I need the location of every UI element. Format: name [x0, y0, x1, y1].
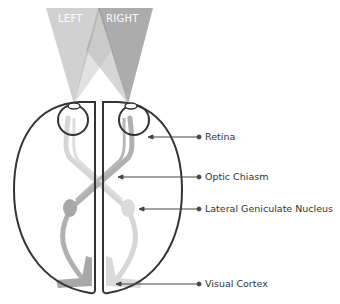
diagram-graphic: [0, 0, 340, 304]
visual-cortex-label: Visual Cortex: [205, 278, 268, 290]
visual-pathway-diagram: LEFT RIGHT Retina Optic Chiasm Lateral G…: [0, 0, 340, 304]
lgn-right: [121, 199, 135, 217]
right-lens: [125, 103, 137, 109]
lgn-left: [63, 199, 77, 217]
left-lens: [68, 103, 80, 109]
right-field-label: RIGHT: [106, 13, 139, 25]
optic-chiasm-label: Optic Chiasm: [205, 171, 268, 183]
left-field-label: LEFT: [58, 13, 83, 25]
lgn-label: Lateral Geniculate Nucleus: [205, 203, 333, 215]
retina-label: Retina: [205, 131, 235, 143]
